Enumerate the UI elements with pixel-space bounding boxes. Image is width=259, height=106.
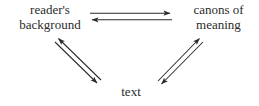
- node-reader-background: reader's background: [0, 2, 100, 32]
- node-canons-meaning: canons of meaning: [178, 2, 259, 32]
- edge-reader-to-text: [55, 42, 97, 83]
- node-text: text: [106, 84, 156, 99]
- edge-text-to-canons: [158, 39, 200, 82]
- node-reader-background-line-1: reader's: [0, 2, 100, 17]
- node-text-line-1: text: [106, 84, 156, 99]
- node-canons-meaning-line-1: canons of: [178, 2, 259, 17]
- node-canons-meaning-line-2: meaning: [178, 17, 259, 32]
- edge-canons-to-text: [162, 42, 204, 84]
- node-reader-background-line-2: background: [0, 17, 100, 32]
- edge-text-to-reader: [59, 39, 102, 81]
- cycle-diagram: reader's background canons of meaning te…: [0, 0, 259, 106]
